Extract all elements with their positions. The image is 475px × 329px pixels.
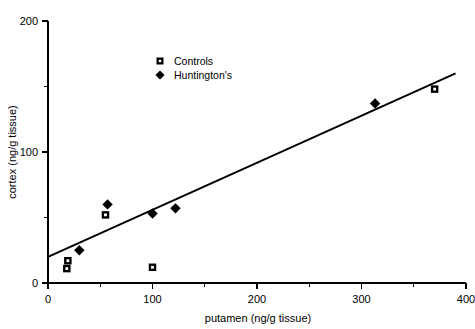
y-axis-ticks — [42, 21, 48, 283]
x-axis-title: putamen (ng/g tissue) — [205, 312, 311, 324]
series-controls-points — [63, 85, 438, 272]
data-point-control-center — [65, 267, 68, 270]
x-tick-label: 400 — [457, 293, 475, 305]
legend-markers — [155, 58, 164, 80]
y-tick-label: 200 — [20, 15, 38, 27]
data-point-control-center — [433, 88, 436, 91]
x-axis-tick-labels: 0100200300400 — [45, 293, 475, 305]
plot-canvas: 0100200 0100200300400 Controls Huntingto… — [0, 0, 475, 329]
data-point-control-center — [104, 213, 107, 216]
y-axis-tick-labels: 0100200 — [20, 15, 38, 289]
y-tick-label: 0 — [32, 277, 38, 289]
data-point-huntingtons — [102, 199, 112, 209]
scatter-plot-figure: 0100200 0100200300400 Controls Huntingto… — [0, 0, 475, 329]
x-tick-label: 200 — [248, 293, 266, 305]
x-tick-label: 0 — [45, 293, 51, 305]
legend-marker-diamond — [155, 70, 164, 79]
legend-marker-square-center — [159, 60, 161, 62]
y-tick-label: 100 — [20, 146, 38, 158]
legend-label-huntingtons: Huntington's — [174, 69, 232, 81]
x-tick-label: 300 — [352, 293, 370, 305]
legend: Controls Huntington's — [155, 55, 232, 81]
regression-line — [48, 73, 456, 256]
legend-label-controls: Controls — [174, 55, 213, 67]
data-point-huntingtons — [170, 203, 180, 213]
y-axis-title: cortex (ng/g tissue) — [6, 105, 18, 199]
data-point-huntingtons — [147, 208, 157, 218]
x-axis: 0100200300400 — [45, 283, 475, 305]
x-axis-ticks — [48, 283, 466, 289]
data-point-control-center — [151, 266, 154, 269]
y-axis: 0100200 — [20, 15, 48, 289]
data-point-control-center — [66, 259, 69, 262]
x-tick-label: 100 — [143, 293, 161, 305]
data-point-huntingtons — [74, 245, 84, 255]
